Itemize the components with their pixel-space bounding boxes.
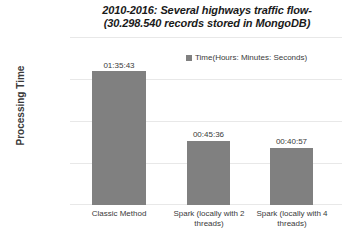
bar-rect-1[interactable] (187, 141, 230, 205)
bar-value-2: 00:40:57 (248, 137, 335, 146)
y-axis-title: Processing Time (15, 41, 26, 171)
chart-title: 2010-2016: Several highways traffic flow… (68, 4, 346, 30)
bar-value-0: 01:35:43 (70, 61, 168, 70)
x-category-label-0: Classic Method (77, 209, 161, 219)
chart-title-line-2: (30.298.540 records stored in MongoDB) (68, 17, 346, 30)
x-category-line: Classic Method (92, 209, 147, 218)
chart-title-line-1: 2010-2016: Several highways traffic flow… (68, 4, 346, 17)
bar-group-classic-method: 01:35:43 (92, 37, 146, 205)
x-category-line: threads) (194, 219, 223, 228)
bar-chart: 2010-2016: Several highways traffic flow… (0, 0, 350, 240)
x-category-label-1: Spark (locally with 2 threads) (166, 209, 252, 229)
bar-value-1: 00:45:36 (165, 130, 252, 139)
bar-group-spark-4-threads: 00:40:57 (270, 37, 313, 205)
x-category-line: Spark (locally with 2 (173, 209, 244, 218)
bar-group-spark-2-threads: 00:45:36 (187, 37, 230, 205)
x-category-label-2: Spark (locally with 4 threads) (249, 209, 335, 229)
bar-rect-2[interactable] (270, 148, 313, 205)
plot-area: 01:35:43 00:45:36 00:40:57 Classic Metho… (70, 37, 342, 205)
x-category-line: Spark (locally with 4 (256, 209, 327, 218)
bar-rect-0[interactable] (92, 71, 146, 205)
x-category-line: threads) (277, 219, 306, 228)
